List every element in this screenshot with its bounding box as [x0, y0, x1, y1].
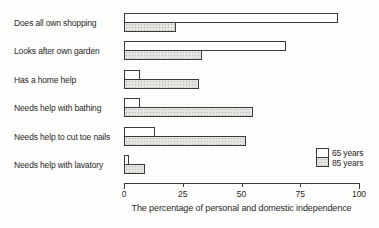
category-label: Has a home help	[14, 75, 76, 85]
x-axis-tick	[300, 183, 301, 187]
x-axis-title: The percentage of personal and domestic …	[119, 203, 364, 213]
category-label: Looks after own garden	[14, 46, 100, 56]
x-axis-tick-label: 50	[229, 189, 255, 199]
plot-area: Does all own shoppingLooks after own gar…	[0, 0, 379, 228]
bar-85-years	[124, 22, 176, 32]
category-label: Needs help with lavatory	[14, 160, 103, 170]
x-axis-tick-label: 75	[287, 189, 313, 199]
x-axis-tick	[242, 183, 243, 187]
category-label: Needs help with bathing	[14, 103, 101, 113]
bar-85-years	[124, 164, 145, 174]
bar-85-years	[124, 50, 202, 60]
category-label: Needs help to cut toe nails	[14, 132, 110, 142]
bar-85-years	[124, 107, 253, 117]
legend-label-85-years: 85 years	[332, 158, 363, 168]
bar-85-years	[124, 136, 246, 146]
legend-label-65-years: 65 years	[332, 148, 363, 158]
x-axis-tick-label: 25	[170, 189, 196, 199]
legend-swatch-85-years	[316, 157, 329, 167]
independence-bar-chart: Does all own shoppingLooks after own gar…	[0, 0, 379, 228]
x-axis-tick-label: 0	[111, 189, 137, 199]
x-axis-tick-label: 100	[346, 189, 372, 199]
category-label: Does all own shopping	[14, 18, 96, 28]
bar-85-years	[124, 79, 199, 89]
x-axis-tick	[183, 183, 184, 187]
